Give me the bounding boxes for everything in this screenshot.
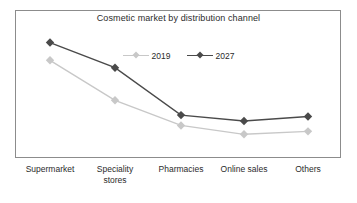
category-label-2: Pharmacies <box>159 164 204 175</box>
chart-plot-frame <box>15 10 341 158</box>
legend-marker-2027-icon <box>187 50 213 61</box>
legend-marker-2019-icon <box>123 50 149 61</box>
legend-label-2027: 2027 <box>216 51 235 61</box>
chart-screenshot: Cosmetic market by distribution channel … <box>0 0 357 203</box>
legend-item-2027[interactable]: 2027 <box>187 50 235 61</box>
category-label-1: Speciality stores <box>97 164 133 186</box>
legend-label-2019: 2019 <box>152 51 171 61</box>
category-label-0: Supermarket <box>26 164 75 175</box>
legend-item-2019[interactable]: 2019 <box>123 50 171 61</box>
chart-title: Cosmetic market by distribution channel <box>0 13 357 24</box>
category-label-3: Online sales <box>221 164 268 175</box>
category-label-4: Others <box>295 164 321 175</box>
category-axis-labels: SupermarketSpeciality storesPharmaciesOn… <box>0 164 357 198</box>
chart-legend: 2019 2027 <box>0 50 357 61</box>
